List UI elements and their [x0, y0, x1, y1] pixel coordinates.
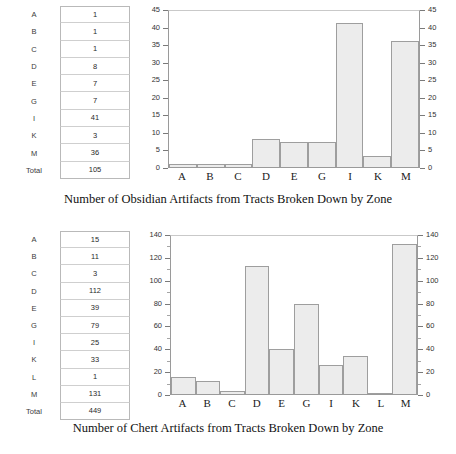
table-row-label: G [8, 92, 60, 109]
y-tick-label: 20 [426, 367, 434, 376]
obsidian-bar-chart: 051015202530354045051015202530354045ABCD… [140, 6, 448, 184]
y-tick-label: 35 [152, 40, 160, 49]
table-row-label: L [8, 369, 60, 386]
y-tick-label: 140 [149, 230, 162, 239]
y-tick [165, 326, 170, 327]
bar-B [196, 381, 221, 394]
y-tick-label: 0 [158, 390, 162, 399]
table-row-value: 112 [60, 283, 130, 300]
table-row: A1 [8, 6, 130, 23]
chert-table: A15B11C3D112E39G79I25K33L1M131Total449 [8, 231, 130, 420]
y-tick [165, 372, 170, 373]
page-footnote-cropped [10, 446, 12, 454]
y-tick [165, 281, 170, 282]
y-tick-label: 20 [152, 93, 160, 102]
y-tick-label: 15 [428, 110, 436, 119]
y-tick [420, 115, 425, 116]
table-row-value: 7 [60, 92, 130, 109]
x-tick-label-D: D [252, 170, 280, 182]
obsidian-caption: Number of Obsidian Artifacts from Tracts… [0, 192, 456, 207]
y-tick [163, 80, 168, 81]
table-row-label: M [8, 144, 60, 161]
table-row-value: 36 [60, 144, 130, 161]
table-row: E7 [8, 75, 130, 92]
table-row-label: B [8, 23, 60, 40]
y-tick [418, 304, 423, 305]
table-row-value: 8 [60, 58, 130, 75]
obsidian-table: A1B1C1D8E7G7I41K3M36Total105 [8, 6, 130, 179]
x-tick-label-G: G [294, 397, 319, 409]
table-row: B1 [8, 23, 130, 40]
table-row: Total105 [8, 162, 130, 179]
y-tick [418, 361, 421, 362]
y-tick-label: 20 [428, 93, 436, 102]
y-tick [418, 315, 421, 316]
y-tick [163, 28, 168, 29]
y-tick-label: 100 [149, 276, 162, 285]
y-tick [420, 10, 425, 11]
y-tick [418, 246, 421, 247]
y-tick [418, 395, 423, 396]
x-tick-label-A: A [168, 170, 196, 182]
x-tick-label-M: M [393, 397, 418, 409]
x-tick-label-G: G [308, 170, 336, 182]
y-tick [418, 372, 423, 373]
bar-E [280, 142, 308, 167]
bar-series [169, 11, 419, 167]
table-row-value: 3 [60, 265, 130, 282]
y-tick [163, 10, 168, 11]
table-row: C1 [8, 41, 130, 58]
y-tick [167, 292, 170, 293]
y-tick [165, 258, 170, 259]
bar-M [392, 244, 417, 394]
y-tick [418, 269, 421, 270]
x-tick-label-E: E [269, 397, 294, 409]
y-tick [167, 246, 170, 247]
y-tick-label: 40 [154, 344, 162, 353]
x-tick-label-K: K [344, 397, 369, 409]
y-tick [418, 349, 423, 350]
table-row-value: 79 [60, 317, 130, 334]
x-tick-label-D: D [244, 397, 269, 409]
y-tick-label: 100 [426, 276, 439, 285]
y-tick-label: 25 [152, 75, 160, 84]
y-tick-label: 5 [428, 145, 432, 154]
y-tick-label: 35 [428, 40, 436, 49]
y-tick [420, 168, 425, 169]
y-tick [167, 338, 170, 339]
y-tick [420, 98, 425, 99]
y-tick-label: 10 [428, 128, 436, 137]
table-row: Total449 [8, 403, 130, 420]
table-row: D8 [8, 58, 130, 75]
y-tick-label: 15 [152, 110, 160, 119]
table-row: G79 [8, 317, 130, 334]
y-tick [163, 133, 168, 134]
y-tick [420, 63, 425, 64]
table-row-value: 3 [60, 127, 130, 144]
bar-I [336, 23, 364, 167]
table-row-label: A [8, 231, 60, 248]
y-tick [418, 338, 421, 339]
y-tick-label: 25 [428, 75, 436, 84]
bar-G [294, 304, 319, 394]
y-tick [165, 349, 170, 350]
table-row: G7 [8, 92, 130, 109]
y-tick-label: 40 [152, 23, 160, 32]
table-row-value: 7 [60, 75, 130, 92]
y-tick-label: 0 [426, 390, 430, 399]
y-tick [420, 80, 425, 81]
x-tick-label-K: K [364, 170, 392, 182]
x-tick-label-I: I [336, 170, 364, 182]
table-row-value: 15 [60, 231, 130, 248]
table-row: E39 [8, 300, 130, 317]
bar-K [343, 356, 368, 394]
table-row-label: K [8, 127, 60, 144]
table-row: K3 [8, 127, 130, 144]
table-row: I41 [8, 110, 130, 127]
table-row-label: K [8, 351, 60, 368]
y-tick [167, 269, 170, 270]
y-tick [163, 98, 168, 99]
bar-E [269, 349, 294, 394]
table-row: L1 [8, 369, 130, 386]
y-tick [163, 150, 168, 151]
